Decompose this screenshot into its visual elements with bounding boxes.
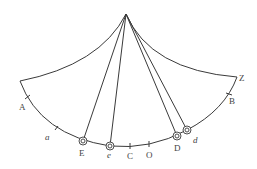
sector-diagram: A a E e C O D d B Z: [0, 0, 257, 169]
label-Z: Z: [239, 73, 245, 83]
label-B: B: [229, 96, 235, 106]
label-e: e: [107, 150, 111, 160]
ring-marker-D: [173, 132, 181, 140]
line-to-D: [126, 14, 177, 136]
label-E: E: [79, 148, 85, 158]
ring-marker-E: [79, 137, 87, 145]
line-to-d: [126, 14, 187, 130]
label-D: D: [174, 143, 181, 153]
ring-marker-e: [106, 142, 114, 150]
tick-A: [25, 95, 30, 99]
label-A: A: [19, 102, 26, 112]
ring-marker-d: [183, 126, 191, 134]
label-O: O: [146, 150, 153, 160]
label-a: a: [45, 132, 50, 142]
left-curved-edge: [20, 14, 126, 81]
label-d: d: [193, 135, 198, 145]
line-to-E: [83, 14, 126, 141]
label-C: C: [127, 151, 133, 161]
bottom-arc: [20, 77, 237, 147]
